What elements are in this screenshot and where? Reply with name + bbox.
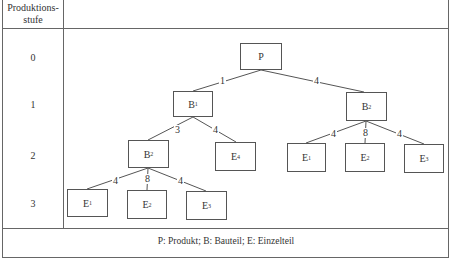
node-einzelteil-e2-level2: E2	[345, 143, 385, 172]
qty-b2l-e2: 8	[144, 174, 151, 184]
qty-b2-e2: 8	[362, 128, 369, 138]
node-einzelteil-e3-level2: E3	[404, 144, 444, 173]
node-bauteil-b1: B1	[173, 91, 213, 117]
qty-b2-e1: 4	[330, 129, 337, 139]
qty-b1-b2: 3	[174, 125, 181, 135]
legend-footer: P: Produkt; B: Bauteil; E: Einzelteil	[3, 236, 449, 246]
qty-p-b1: 1	[219, 76, 226, 86]
node-bauteil-b2-level1: B2	[346, 92, 387, 121]
node-einzelteil-e1-level2: E1	[287, 143, 326, 172]
qty-b1-e4: 4	[212, 125, 219, 135]
qty-b2-e3: 4	[396, 129, 403, 139]
node-bauteil-b2-level2: B2	[128, 140, 169, 168]
qty-b2l-e3: 4	[177, 176, 184, 186]
node-einzelteil-e3-level3: E3	[186, 191, 227, 220]
tree-edges	[0, 0, 455, 263]
node-product-p: P	[240, 43, 282, 70]
node-einzelteil-e2-level3: E2	[127, 190, 167, 219]
node-einzelteil-e1-level3: E1	[67, 189, 108, 217]
qty-p-b2: 4	[313, 76, 320, 86]
node-einzelteil-e4: E4	[215, 142, 256, 171]
qty-b2l-e1: 4	[112, 176, 119, 186]
